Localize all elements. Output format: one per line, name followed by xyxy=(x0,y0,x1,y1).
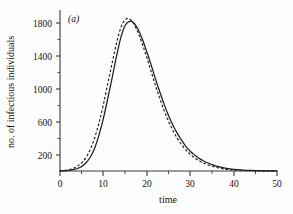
y-axis-title: no. of infectious individuals xyxy=(5,36,16,148)
infectious-individuals-line-chart: 0 10 20 30 40 50 200 600 1000 1400 1800 … xyxy=(0,0,293,214)
x-tick-label-5: 50 xyxy=(272,179,282,189)
x-tick-label-1: 10 xyxy=(98,179,108,189)
y-tick-label-600: 600 xyxy=(38,118,53,128)
panel-label: (a) xyxy=(68,14,79,25)
x-tick-label-2: 20 xyxy=(142,179,152,189)
y-tick-label-1800: 1800 xyxy=(33,19,52,29)
y-tick-label-1400: 1400 xyxy=(33,52,52,62)
x-tick-label-4: 40 xyxy=(229,179,239,189)
x-tick-label-3: 30 xyxy=(185,179,195,189)
y-tick-label-200: 200 xyxy=(38,151,53,161)
x-axis-title: time xyxy=(159,194,177,205)
figure-panel: 0 10 20 30 40 50 200 600 1000 1400 1800 … xyxy=(0,0,293,214)
y-tick-label-1000: 1000 xyxy=(33,85,52,95)
x-tick-label-0: 0 xyxy=(58,179,63,189)
